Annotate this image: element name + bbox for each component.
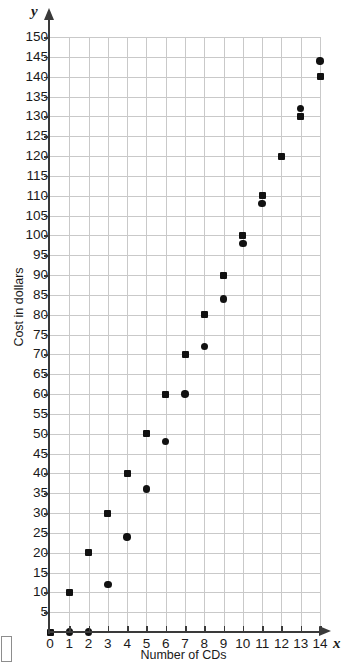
x-tick-mark — [224, 626, 226, 632]
x-tick-mark — [89, 626, 91, 632]
x-tick-mark — [127, 626, 129, 632]
x-tick-mark — [301, 626, 303, 632]
x-tick-mark — [185, 626, 187, 632]
y-axis-title: Cost in dollars — [12, 247, 26, 367]
page-corner-artifact — [1, 636, 12, 662]
x-tick-mark — [204, 626, 206, 632]
x-tick-mark — [262, 626, 264, 632]
x-tick-mark — [281, 626, 283, 632]
x-tick-mark — [243, 626, 245, 632]
scatter-plot: 5101520253035404550556065707580859095100… — [0, 0, 349, 669]
x-axis-tick-labels: 01234567891011121314 — [0, 0, 349, 669]
x-tick-mark — [108, 626, 110, 632]
x-axis-title: Number of CDs — [0, 648, 349, 662]
x-tick-mark — [146, 626, 148, 632]
y-axis-variable-label: y — [31, 3, 38, 20]
x-tick-mark — [166, 626, 168, 632]
x-tick-mark — [320, 626, 322, 632]
x-tick-mark — [69, 626, 71, 632]
